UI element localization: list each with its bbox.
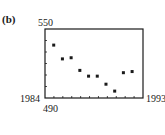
axis-ticks bbox=[45, 41, 134, 99]
scatter-plot bbox=[0, 0, 165, 135]
data-point-square-icon bbox=[78, 69, 81, 72]
data-point-square-icon bbox=[113, 90, 116, 93]
data-point-square-icon bbox=[104, 83, 107, 86]
data-point-square-icon bbox=[52, 44, 55, 47]
data-point-square-icon bbox=[122, 71, 125, 74]
data-point-square-icon bbox=[70, 56, 73, 59]
data-point-square-icon bbox=[96, 75, 99, 78]
data-point-square-icon bbox=[87, 75, 90, 78]
data-points bbox=[52, 44, 133, 93]
data-point-square-icon bbox=[131, 70, 134, 73]
plot-frame bbox=[45, 29, 143, 98]
data-point-square-icon bbox=[61, 57, 64, 60]
